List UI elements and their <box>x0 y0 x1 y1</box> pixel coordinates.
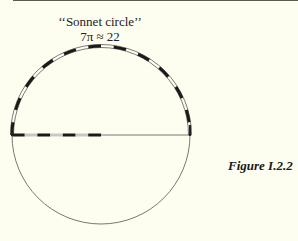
arc-dash <box>43 60 53 68</box>
arc-dash <box>88 46 101 47</box>
lower-semicircle <box>12 135 190 224</box>
upper-arc-inner <box>14 48 189 136</box>
arc-dash-segments <box>12 46 189 135</box>
sonnet-circle-diagram <box>0 0 298 241</box>
figure-caption: Figure I.2.2 <box>228 158 293 174</box>
upper-arc-outer <box>11 45 192 135</box>
arc-dash <box>26 77 34 87</box>
arc-dash <box>159 68 168 77</box>
